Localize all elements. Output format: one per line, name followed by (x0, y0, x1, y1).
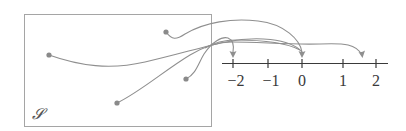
mapping-curve (166, 20, 302, 52)
sample-space-label: 𝓢 (32, 105, 48, 123)
tick-label: 0 (298, 72, 306, 89)
sample-point (183, 76, 188, 81)
sample-point (163, 29, 168, 34)
sample-space-box (25, 15, 212, 127)
arrowhead-icon (299, 51, 306, 58)
mapping-curve (205, 40, 300, 50)
tick-label: 1 (339, 72, 347, 89)
tick-labels: −2 −1 0 1 2 (227, 72, 380, 89)
mapping-curve (186, 38, 233, 79)
arrowhead-icon (230, 51, 237, 58)
number-line (222, 59, 388, 68)
sample-point (46, 52, 51, 57)
tick-label: −1 (262, 72, 279, 89)
mapping-curves (49, 20, 362, 103)
tick-label: −2 (227, 72, 244, 89)
sample-points (46, 29, 188, 105)
random-variable-diagram: 𝓢 −2 −1 0 1 2 (0, 0, 406, 131)
arrowheads (230, 51, 366, 59)
tick-label: 2 (372, 72, 380, 89)
sample-point (114, 100, 119, 105)
